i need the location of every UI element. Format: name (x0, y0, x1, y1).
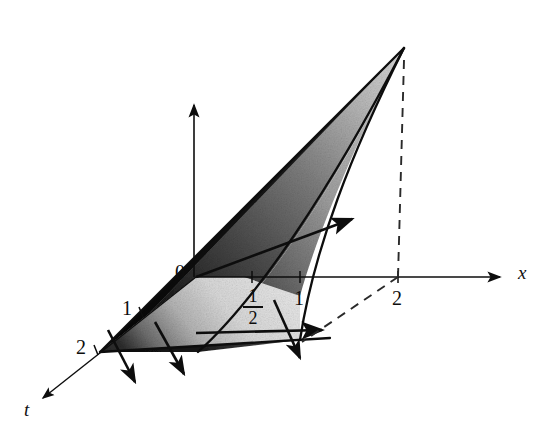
t-axis-label: t (24, 400, 29, 419)
math-figure-canvas: 0 x t 1 2 1 2 1 2 (0, 0, 549, 431)
fraction-numerator: 1 (243, 287, 263, 305)
x-tick-label-one-half: 1 2 (243, 287, 263, 328)
x-axis-label: x (518, 263, 526, 282)
figure-vector-graphic (0, 0, 549, 431)
t-tick-label-one: 1 (122, 298, 132, 318)
dashed-diagonal-floor (302, 277, 398, 342)
t-tick-label-two: 2 (76, 337, 86, 357)
dashed-vertical-at-x2 (398, 60, 404, 277)
t-tick-two (94, 345, 98, 355)
x-tick-label-one: 1 (294, 288, 304, 308)
x-tick-label-two: 2 (392, 288, 402, 308)
fraction-denominator: 2 (243, 309, 263, 327)
origin-label: 0 (175, 262, 185, 282)
